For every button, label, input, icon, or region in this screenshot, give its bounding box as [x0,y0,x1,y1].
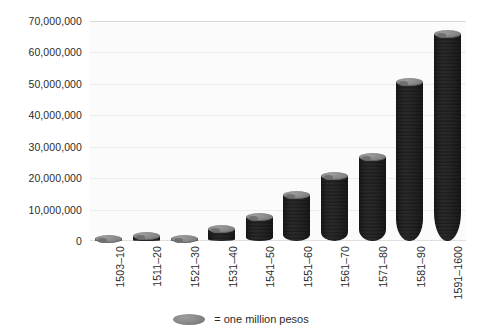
x-axis-tick-label: 1591–1600 [452,246,464,299]
x-axis: 1503–101511–201521–301531–401541–501551–… [90,244,466,302]
bar [246,213,273,241]
coin-notch [324,175,333,180]
coin-stack-body [321,176,348,241]
bars-layer [90,21,466,241]
y-axis-tick-label: 50,000,000 [28,78,82,90]
coin-stack-body [434,34,461,241]
x-axis-tick-label: 1581–90 [415,246,427,288]
x-axis-tick-label: 1503–10 [114,246,126,288]
y-axis-tick-label: 10,000,000 [28,204,82,216]
y-axis-tick-label: 0 [76,235,82,247]
legend-label: = one million pesos [214,313,308,325]
x-axis-tick-label: 1521–30 [189,246,201,288]
bar [321,172,348,241]
x-axis-tick-label: 1561–70 [339,246,351,288]
bar [283,191,310,241]
y-axis-tick-label: 60,000,000 [28,46,82,58]
y-axis: 010,000,00020,000,00030,000,00040,000,00… [0,0,88,250]
x-axis-tick-label: 1531–40 [227,246,239,288]
bar [95,235,122,241]
plot-area [90,21,466,241]
coin-notch [174,238,183,243]
coin-stack-body [359,157,386,241]
bar [171,235,198,241]
coin-notch [362,156,371,161]
bar [359,153,386,241]
coin-notch [286,194,295,199]
coin-notch [136,235,145,240]
x-axis-tick-label: 1541–50 [264,246,276,288]
bar [396,78,423,241]
coin-ellipse-icon [173,314,205,325]
bar [208,225,235,241]
coin-notch [249,216,258,221]
bar [133,232,160,241]
chart-legend: = one million pesos [0,306,482,332]
coin-stack-body [283,195,310,241]
y-axis-tick-label: 30,000,000 [28,141,82,153]
x-axis-tick-label: 1571–80 [377,246,389,288]
x-axis-tick-label: 1551–60 [302,246,314,288]
coin-notch [399,81,408,86]
bar [434,30,461,241]
y-axis-tick-label: 70,000,000 [28,15,82,27]
x-axis-tick-label: 1511–20 [151,246,163,287]
y-axis-tick-label: 20,000,000 [28,172,82,184]
y-axis-tick-label: 40,000,000 [28,109,82,121]
coin-stack-body [396,82,423,241]
coin-notch [98,238,107,243]
bar-chart: 010,000,00020,000,00030,000,00040,000,00… [0,0,482,332]
